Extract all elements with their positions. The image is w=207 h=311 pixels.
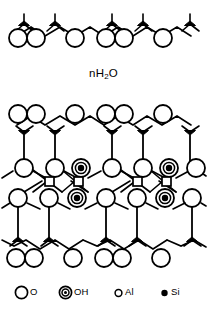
legend-label-aluminium: Al (125, 287, 134, 297)
oxygen-atom (187, 159, 205, 177)
silicon-atom (50, 21, 61, 26)
oxygen-atom (66, 105, 84, 123)
oxygen-atom (9, 105, 27, 123)
oxygen-circle-icon (14, 285, 29, 300)
oxygen-atom (154, 29, 172, 47)
silicon-filled-dot-icon (159, 285, 170, 300)
tetrahedral-sheet-top (9, 105, 199, 162)
silicon-atom (138, 131, 149, 136)
tetrahedral-sheet-bottom (2, 207, 206, 267)
hydroxyl-double-circle-icon (58, 285, 73, 300)
oxygen-atom (27, 29, 45, 47)
silicon-atom (138, 21, 149, 26)
oxygen-atom (97, 29, 115, 47)
oxygen-atom (97, 105, 115, 123)
legend-item-aluminium: Al (113, 284, 134, 300)
oxygen-atom (9, 29, 27, 47)
aluminium-atom (74, 177, 83, 186)
oxygen-atom (115, 29, 133, 47)
oxygen-atom (128, 189, 146, 207)
silicon-atom (107, 131, 118, 136)
oxygen-atom (9, 189, 27, 207)
oxygen-atom (15, 159, 33, 177)
hydroxyl-atom (156, 189, 174, 207)
interlayer-water-label-tail: O (109, 67, 118, 79)
oxygen-atom (46, 159, 64, 177)
legend-label-oxygen: O (30, 287, 38, 297)
legend-item-hydroxyl: OH (58, 284, 88, 300)
silicon-atom (185, 21, 196, 26)
clay-mineral-structure-figure: .bond { stroke:#000; stroke-width:1.6; f… (0, 0, 207, 311)
legend-item-silicon: Si (159, 284, 180, 300)
oxygen-atom (183, 189, 201, 207)
oxygen-atom (113, 249, 131, 267)
silicon-atom (50, 131, 61, 136)
oxygen-atom (95, 249, 113, 267)
legend-label-hydroxyl: OH (74, 287, 88, 297)
oxygen-atom (66, 29, 84, 47)
legend: O OH Al Si (0, 283, 207, 305)
oxygen-atom (97, 189, 115, 207)
oxygen-atom (25, 249, 43, 267)
oxygen-atom (64, 249, 82, 267)
silicon-atom (107, 21, 118, 26)
crystal-structure-diagram: .bond { stroke:#000; stroke-width:1.6; f… (0, 0, 207, 311)
aluminium-small-circle-icon (113, 285, 124, 300)
silicon-atom (185, 131, 196, 136)
legend-item-oxygen: O (14, 284, 38, 300)
hydroxyl-atom (72, 159, 90, 177)
oxygen-atom (134, 159, 152, 177)
interlayer-water-label: nH2O (0, 68, 207, 81)
oxygen-atom (7, 249, 25, 267)
oxygen-atom (115, 105, 133, 123)
aluminium-atom (133, 177, 142, 186)
oxygen-atom (152, 249, 170, 267)
hydroxyl-atom (68, 189, 86, 207)
upper-interlayer-tetrahedral-sheet (9, 14, 199, 47)
aluminium-atom (45, 177, 54, 186)
oxygen-atom (103, 159, 121, 177)
hydroxyl-atom (160, 159, 178, 177)
oxygen-atom (27, 105, 45, 123)
silicon-atom (19, 131, 30, 136)
silicon-atom (19, 21, 30, 26)
interlayer-water-label-main: nH (89, 67, 104, 79)
oxygen-atom (154, 105, 172, 123)
oxygen-atom (40, 189, 58, 207)
aluminium-atom (162, 177, 171, 186)
octahedral-sheet (2, 159, 206, 209)
legend-label-silicon: Si (171, 287, 180, 297)
